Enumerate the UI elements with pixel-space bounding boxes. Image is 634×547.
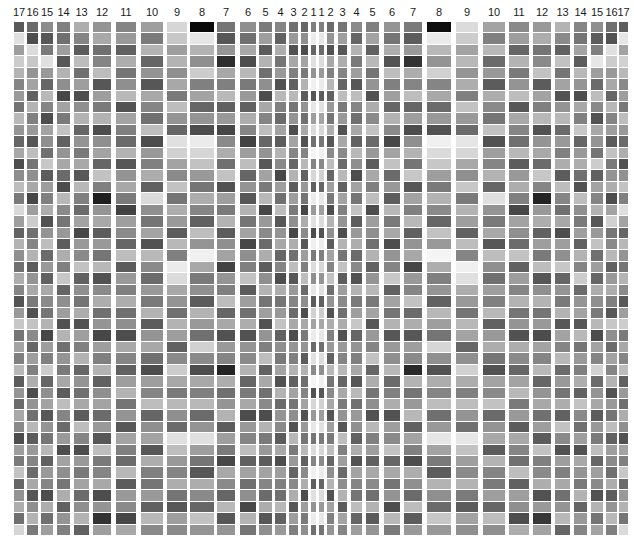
heatmap-cell — [619, 308, 628, 319]
heatmap-cell — [327, 410, 334, 421]
heatmap-cell — [338, 170, 347, 181]
heatmap-cell — [93, 342, 111, 353]
heatmap-cell — [427, 125, 451, 136]
heatmap-cell — [384, 308, 400, 319]
heatmap-cell — [533, 342, 551, 353]
heatmap-cell — [533, 125, 551, 136]
heatmap-cell — [217, 388, 235, 399]
heatmap-cell — [384, 102, 400, 113]
heatmap-cell — [311, 353, 316, 364]
heatmap-cell — [217, 456, 235, 467]
heatmap-cell — [301, 262, 308, 273]
heatmap-cell — [259, 365, 272, 376]
heatmap-cell — [404, 193, 422, 204]
heatmap-cell — [259, 353, 272, 364]
heatmap-cell — [533, 68, 551, 79]
heatmap-cell — [483, 319, 505, 330]
heatmap-cell — [57, 250, 70, 261]
heatmap-cell — [240, 159, 256, 170]
heatmap-cell — [74, 205, 89, 216]
heatmap-cell — [384, 170, 400, 181]
heatmap-cell — [141, 125, 163, 136]
heatmap-cell — [427, 467, 451, 478]
heatmap-cell — [167, 490, 187, 501]
heatmap-cell — [141, 456, 163, 467]
heatmap-cell — [57, 79, 70, 90]
heatmap-cell — [338, 56, 347, 67]
heatmap-cell — [217, 22, 235, 33]
heatmap-cell — [427, 205, 451, 216]
heatmap-cell — [327, 353, 334, 364]
heatmap-cell — [190, 125, 214, 136]
heatmap-cell — [41, 182, 53, 193]
heatmap-cell — [366, 193, 379, 204]
heatmap-cell — [366, 102, 379, 113]
heatmap-cell — [275, 33, 286, 44]
heatmap-cell — [509, 250, 529, 261]
heatmap-cell — [190, 445, 214, 456]
heatmap-cell — [141, 136, 163, 147]
heatmap-cell — [240, 330, 256, 341]
heatmap-cell — [404, 113, 422, 124]
heatmap-cell — [319, 239, 324, 250]
heatmap-cell — [338, 125, 347, 136]
heatmap-cell — [259, 182, 272, 193]
heatmap-cell — [591, 136, 603, 147]
heatmap-cell — [404, 330, 422, 341]
heatmap-cell — [509, 136, 529, 147]
heatmap-cell — [116, 330, 136, 341]
heatmap-cell — [74, 342, 89, 353]
heatmap-column-10 — [217, 22, 235, 535]
heatmap-cell — [217, 250, 235, 261]
heatmap-cell — [404, 365, 422, 376]
heatmap-cell — [57, 490, 70, 501]
heatmap-cell — [41, 456, 53, 467]
heatmap-cell — [574, 410, 587, 421]
heatmap-cell — [338, 296, 347, 307]
heatmap-cell — [456, 79, 478, 90]
heatmap-cell — [427, 319, 451, 330]
heatmap-cell — [509, 376, 529, 387]
heatmap-cell — [301, 479, 308, 490]
heatmap-cell — [289, 22, 298, 33]
heatmap-cell — [384, 250, 400, 261]
heatmap-cell — [167, 193, 187, 204]
heatmap-cell — [14, 79, 24, 90]
heatmap-cell — [327, 193, 334, 204]
heatmap-cell — [27, 136, 38, 147]
heatmap-cell — [555, 68, 570, 79]
heatmap-cell — [319, 136, 324, 147]
heatmap-cell — [217, 376, 235, 387]
heatmap-cell — [427, 102, 451, 113]
heatmap-cell — [259, 273, 272, 284]
heatmap-cell — [351, 467, 362, 478]
heatmap-cell — [533, 296, 551, 307]
heatmap-cell — [404, 342, 422, 353]
heatmap-cell — [404, 250, 422, 261]
heatmap-cell — [319, 262, 324, 273]
heatmap-cell — [240, 502, 256, 513]
heatmap-cell — [555, 490, 570, 501]
heatmap-cell — [259, 79, 272, 90]
heatmap-cell — [483, 388, 505, 399]
heatmap-cell — [57, 56, 70, 67]
heatmap-cell — [591, 91, 603, 102]
heatmap-cell — [289, 376, 298, 387]
heatmap-cell — [116, 205, 136, 216]
heatmap-cell — [319, 399, 324, 410]
heatmap-cell — [404, 125, 422, 136]
heatmap-cell — [14, 479, 24, 490]
heatmap-cell — [289, 262, 298, 273]
heatmap-cell — [574, 422, 587, 433]
heatmap-cell — [574, 68, 587, 79]
heatmap-cell — [327, 45, 334, 56]
heatmap-cell — [74, 125, 89, 136]
heatmap-cell — [404, 159, 422, 170]
heatmap-cell — [240, 365, 256, 376]
heatmap-cell — [289, 148, 298, 159]
heatmap-cell — [338, 319, 347, 330]
heatmap-cell — [351, 91, 362, 102]
heatmap-cell — [41, 410, 53, 421]
heatmap-cell — [319, 273, 324, 284]
heatmap-column-24 — [427, 22, 451, 535]
